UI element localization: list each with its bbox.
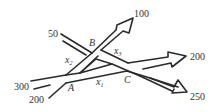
flow-label-50-in: 50	[48, 29, 58, 39]
edge-label-x3: x3	[114, 46, 121, 57]
road-200-in	[49, 83, 66, 98]
flow-label-300-in: 300	[14, 82, 29, 92]
flow-label-200-in: 200	[29, 95, 44, 105]
node-label-b: B	[89, 38, 95, 48]
flow-label-100-out: 100	[134, 9, 149, 19]
node-label-c: C	[124, 75, 131, 85]
road-300-in	[31, 75, 66, 81]
node-label-a: A	[68, 83, 74, 93]
traffic-flow-diagram: 50 100 200 250 300 200 A B C x2 x1 x3	[0, 0, 213, 112]
flow-label-250-out: 250	[190, 92, 205, 102]
road-300-in-lower	[34, 85, 50, 89]
edge-label-x1: x1	[96, 77, 103, 88]
flow-label-200-out: 200	[190, 52, 205, 62]
edge-label-x2: x2	[65, 55, 72, 66]
